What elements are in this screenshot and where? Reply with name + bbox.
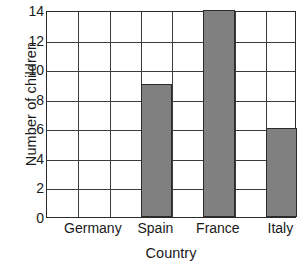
plot-area (46, 11, 296, 218)
x-axis-tick-label: Spain (137, 221, 173, 235)
y-axis-tick-label: 0 (22, 211, 44, 225)
y-axis-tick-label: 10 (22, 63, 44, 77)
y-axis-tick-label: 6 (22, 122, 44, 136)
x-axis-tick-labels: GermanySpainFranceItaly (46, 221, 296, 241)
x-axis-title: Country (46, 245, 296, 261)
x-axis-tick-label: France (196, 221, 240, 235)
x-axis-tick-label: Italy (268, 221, 294, 235)
y-axis-tick-labels: 02468101214 (22, 11, 44, 218)
y-axis-tick-label: 14 (22, 4, 44, 18)
y-axis-tick-label: 8 (22, 93, 44, 107)
bar-italy (266, 128, 297, 217)
bars-group (47, 12, 295, 217)
bar-chart-figure: Number of children 02468101214 GermanySp… (0, 0, 301, 271)
x-axis-tick-label: Germany (64, 221, 122, 235)
y-axis-tick-label: 12 (22, 34, 44, 48)
y-axis-tick-label: 2 (22, 181, 44, 195)
y-axis-tick-label: 4 (22, 152, 44, 166)
bar-france (203, 10, 234, 217)
bar-spain (141, 84, 172, 217)
